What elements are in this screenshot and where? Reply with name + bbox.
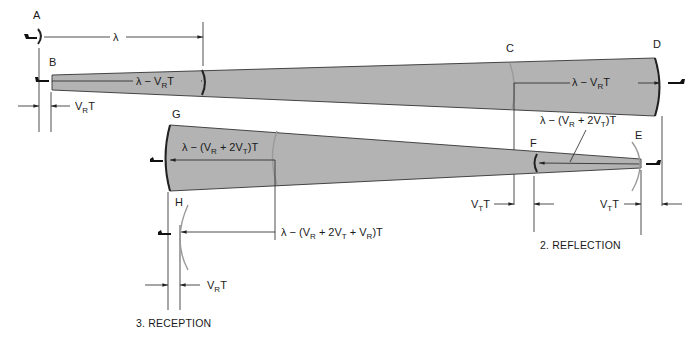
target-aircraft-e-icon [646,160,661,165]
received-pulse-front-h [180,205,188,270]
point-c-label: C [506,42,514,54]
aircraft-a-icon [24,34,37,39]
point-h-label: H [175,196,183,208]
wavelength-label: λ [113,31,119,43]
reception-caption: 3. RECEPTION [136,317,211,329]
emitted-pulse-front-a [38,29,41,44]
point-b-label: B [49,56,56,68]
reflection-caption: 2. REFLECTION [540,239,621,251]
aircraft-h-icon [158,230,171,235]
offset-label-vrt-3: VRT [207,279,227,294]
point-g-label: G [172,108,181,120]
return-beam [166,125,642,191]
offset-label-vtt-right: VTT [600,198,619,213]
offset-label-vrt-1: VRT [75,100,95,115]
point-a-label: A [33,9,41,21]
target-aircraft-d-icon [668,79,685,84]
received-wavelength-label: λ − (VR + 2VT + VR)T [281,226,383,241]
point-e-label: E [635,129,642,141]
point-f-label: F [530,137,537,149]
point-d-label: D [653,38,661,50]
aircraft-b-icon [35,77,49,82]
reflected-wavelength-label: λ − (VR + 2VT)T [540,114,616,129]
offset-label-vtt-left: VTT [471,198,490,213]
aircraft-g-icon [150,157,163,162]
radar-doppler-diagram: A λ B λ − VRT VRT C λ − VRT D λ − (VR + … [0,0,694,337]
